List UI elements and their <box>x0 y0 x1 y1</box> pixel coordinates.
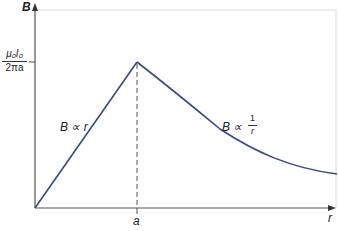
curve-inside-linear <box>35 62 137 208</box>
y-tick-denominator: 2πa <box>5 63 23 73</box>
magnetic-field-diagram: B r a μ₀I₀ 2πa B ∝ r B ∝ 1 r <box>0 0 338 231</box>
y-tick-numerator: μ₀I₀ <box>5 49 24 59</box>
y-tick-label: μ₀I₀ 2πa <box>2 49 27 73</box>
outside-region-label-prefix: B ∝ <box>222 120 242 134</box>
x-tick-label: a <box>133 214 140 228</box>
y-axis-arrow-icon <box>32 3 38 11</box>
curve-outside-inverse <box>137 62 337 174</box>
outside-region-fraction: 1 r <box>248 114 257 136</box>
diagram-canvas <box>0 0 338 231</box>
y-axis-label: B <box>22 0 31 14</box>
x-axis-label: r <box>328 211 332 225</box>
outside-fraction-numerator: 1 <box>249 114 256 123</box>
inside-region-label: B ∝ r <box>60 120 88 134</box>
outside-fraction-denominator: r <box>251 127 254 136</box>
plot-frame <box>35 10 336 208</box>
